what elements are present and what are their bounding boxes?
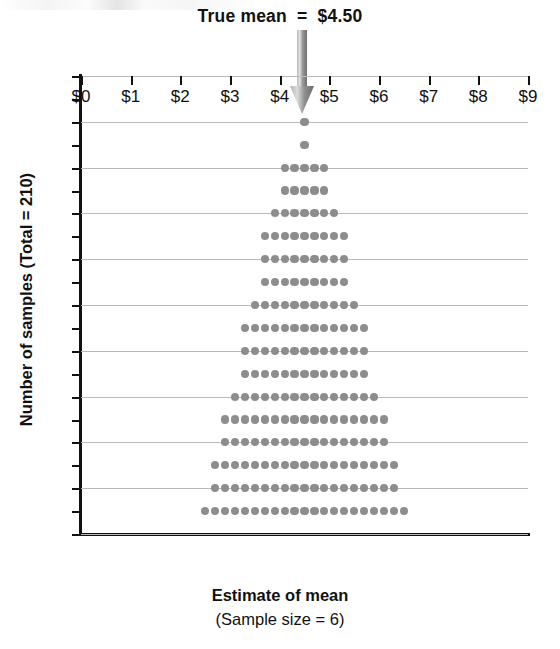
data-dot (290, 278, 298, 286)
data-dot (340, 324, 348, 332)
data-dot (300, 209, 308, 217)
data-dot (231, 461, 239, 469)
data-dot (261, 461, 269, 469)
y-tick-minor (72, 328, 81, 330)
data-dot (360, 347, 368, 355)
data-dot (310, 301, 318, 309)
x-tick (230, 76, 232, 85)
x-tick-label: $6 (357, 87, 401, 107)
data-dot (330, 393, 338, 401)
data-dot (271, 232, 279, 240)
y-tick-minor (72, 145, 81, 147)
data-dot (300, 118, 308, 126)
data-dot (241, 507, 249, 515)
data-dot (251, 324, 259, 332)
data-dot (310, 209, 318, 217)
data-dot (380, 507, 388, 515)
data-dot (211, 507, 219, 515)
data-dot (290, 415, 298, 423)
data-dot (360, 507, 368, 515)
data-dot (340, 393, 348, 401)
data-dot (300, 324, 308, 332)
data-dot (320, 255, 328, 263)
data-dot (310, 484, 318, 492)
y-axis-title: Number of samples (Total = 210) (17, 60, 36, 540)
data-dot (221, 461, 229, 469)
y-tick-minor (72, 511, 81, 513)
data-dot (241, 415, 249, 423)
x-tick-label: $2 (158, 87, 202, 107)
data-dot (290, 461, 298, 469)
data-dot (201, 507, 209, 515)
data-dot (300, 255, 308, 263)
data-dot (320, 347, 328, 355)
y-tick-minor (72, 420, 81, 422)
data-dot (330, 370, 338, 378)
data-dot (320, 484, 328, 492)
data-dot (310, 255, 318, 263)
data-dot (271, 255, 279, 263)
data-dot (281, 324, 289, 332)
data-dot (370, 507, 378, 515)
data-dot (330, 507, 338, 515)
data-dot (300, 461, 308, 469)
data-dot (281, 370, 289, 378)
data-dot (271, 301, 279, 309)
gridline (81, 534, 528, 535)
data-dot (300, 370, 308, 378)
data-dot (300, 484, 308, 492)
data-dot (370, 438, 378, 446)
data-dot (251, 347, 259, 355)
x-tick-label: $3 (208, 87, 252, 107)
y-tick-major (72, 442, 81, 444)
data-dot (241, 370, 249, 378)
data-dot (261, 438, 269, 446)
data-dot (221, 415, 229, 423)
data-dot (290, 393, 298, 401)
data-dot (340, 415, 348, 423)
data-dot (271, 507, 279, 515)
data-dot (261, 324, 269, 332)
data-dot (380, 484, 388, 492)
data-dot (251, 370, 259, 378)
data-dot (290, 347, 298, 355)
data-dot (261, 393, 269, 401)
data-dot (350, 347, 358, 355)
data-dot (251, 415, 259, 423)
data-dot (300, 507, 308, 515)
data-dot (261, 347, 269, 355)
data-dot (221, 438, 229, 446)
data-dot (290, 507, 298, 515)
x-tick-label: $8 (456, 87, 500, 107)
gridline (81, 76, 528, 77)
data-dot (370, 484, 378, 492)
x-tick (180, 76, 182, 85)
data-dot (271, 393, 279, 401)
data-dot (350, 324, 358, 332)
data-dot (350, 438, 358, 446)
x-tick-label: $9 (506, 87, 550, 107)
y-tick-major (72, 122, 81, 124)
data-dot (261, 370, 269, 378)
data-dot (211, 484, 219, 492)
data-dot (370, 461, 378, 469)
data-dot (390, 461, 398, 469)
data-dot (261, 301, 269, 309)
y-tick-major (72, 213, 81, 215)
data-dot (350, 415, 358, 423)
data-dot (390, 507, 398, 515)
x-tick-label: $0 (59, 87, 103, 107)
data-dot (370, 393, 378, 401)
data-dot (300, 393, 308, 401)
data-dot (330, 301, 338, 309)
data-dot (271, 415, 279, 423)
y-tick-major (72, 76, 81, 78)
data-dot (310, 438, 318, 446)
data-dot (290, 186, 298, 194)
true-mean-annotation-label: True mean = $4.50 (0, 6, 560, 27)
data-dot (290, 324, 298, 332)
data-dot (330, 438, 338, 446)
data-dot (320, 186, 328, 194)
data-dot (241, 484, 249, 492)
data-dot (400, 507, 408, 515)
